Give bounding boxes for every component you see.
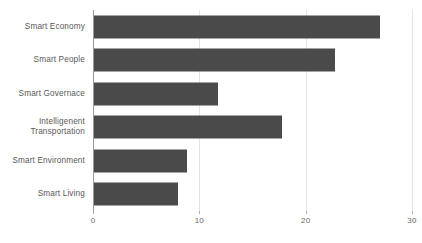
category-label: Smart People [0,55,89,65]
x-tick-mark [199,211,200,214]
category-label: Smart Environment [0,156,89,166]
gridline-x-20 [306,10,307,211]
category-label: Smart Living [0,189,89,199]
gridline-x-10 [199,10,200,211]
category-label: Smart Economy [0,22,89,32]
gridline-x-30 [412,10,413,211]
bar [94,116,282,139]
plot-area [93,10,412,211]
x-tick-mark [306,211,307,214]
bar [94,149,187,172]
x-tick-mark [93,211,94,214]
x-tick-mark [412,211,413,214]
bar [94,82,218,105]
bar [94,15,380,38]
horizontal-bar-chart: Smart EconomySmart PeopleSmart Governace… [0,0,422,243]
x-tick-label: 0 [91,216,96,225]
x-tick-label: 20 [301,216,310,225]
category-label: Smart Governace [0,89,89,99]
bar [94,183,178,206]
x-tick-label: 30 [407,216,416,225]
category-axis-labels: Smart EconomySmart PeopleSmart Governace… [0,10,89,211]
x-tick-label: 10 [195,216,204,225]
bar [94,49,335,72]
y-axis-line [93,10,94,211]
category-label: Intelligenent Transportation [0,118,89,137]
x-axis: 0102030 [93,211,412,233]
